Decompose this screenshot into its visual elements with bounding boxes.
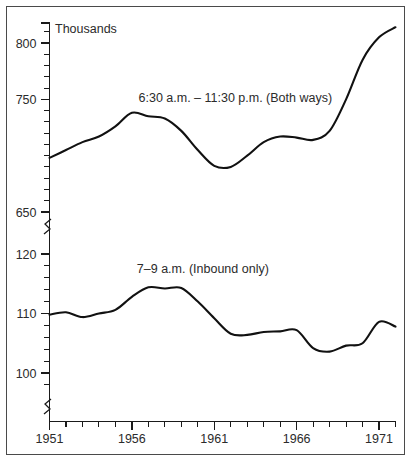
y-axis-major-ticks xyxy=(41,23,50,373)
x-axis-minor-ticks xyxy=(66,421,396,427)
series-label-inbound-only: 7–9 a.m. (Inbound only) xyxy=(137,262,269,276)
y-tick-label: 800 xyxy=(16,37,37,51)
x-tick-label: 1961 xyxy=(200,432,228,446)
transit-ridership-line-chart: 650750800100110120 19511956196119661971 … xyxy=(7,7,404,454)
x-tick-label: 1971 xyxy=(365,432,393,446)
series-curves xyxy=(50,27,396,351)
y-tick-label: 120 xyxy=(16,248,37,262)
chart-frame: 650750800100110120 19511956196119661971 … xyxy=(6,6,405,455)
series-label-both-ways: 6:30 a.m. – 11:30 p.m. (Both ways) xyxy=(139,91,333,105)
y-axis-tick-labels: 650750800100110120 xyxy=(16,37,37,381)
x-tick-label: 1966 xyxy=(283,432,311,446)
x-axis-group: 19511956196119661971 xyxy=(36,421,396,446)
y-tick-label: 750 xyxy=(16,93,37,107)
y-axis-group: 650750800100110120 xyxy=(16,23,51,421)
y-tick-label: 110 xyxy=(17,307,37,321)
x-axis-tick-labels: 19511956196119661971 xyxy=(36,432,393,446)
y-tick-label: 650 xyxy=(16,206,37,220)
x-tick-label: 1951 xyxy=(36,432,64,446)
x-tick-label: 1956 xyxy=(118,432,146,446)
y-axis-minor-ticks xyxy=(44,32,50,385)
series-curve-inbound-only xyxy=(50,287,396,352)
y-axis-unit-label: Thousands xyxy=(55,22,117,36)
y-tick-label: 100 xyxy=(16,367,37,381)
